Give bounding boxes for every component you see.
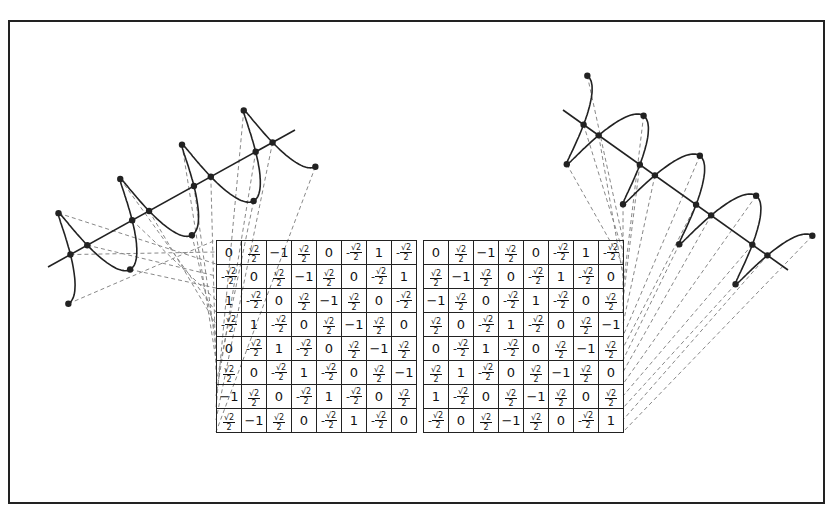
matrix-row: √220-√221-√220√22−1 xyxy=(424,313,624,337)
matrix-cell: −1 xyxy=(474,241,499,265)
sample-point xyxy=(595,132,601,138)
matrix-cell: -√22 xyxy=(292,337,317,361)
projection-line xyxy=(623,244,679,360)
matrix-cell: √22 xyxy=(524,409,549,433)
matrix-cell: -√22 xyxy=(499,337,524,361)
matrix-cell: -√22 xyxy=(499,289,524,313)
matrix-cell: -√22 xyxy=(524,313,549,337)
matrix-cell: -√22 xyxy=(242,337,267,361)
matrix-cell: 1 xyxy=(317,385,342,409)
matrix-cell: -√22 xyxy=(317,361,342,385)
matrix-cell: 0 xyxy=(424,241,449,265)
matrix-cell: 0 xyxy=(474,289,499,313)
sample-point xyxy=(146,208,152,214)
matrix-cell: 0 xyxy=(342,361,367,385)
matrix-row: √220-√221-√220√22−1 xyxy=(217,361,417,385)
matrix-row: -√221-√220√22−1√220 xyxy=(217,313,417,337)
matrix-cell: 0 xyxy=(474,385,499,409)
projection-line xyxy=(87,245,216,276)
matrix-cell: 1 xyxy=(424,385,449,409)
projection-line xyxy=(623,156,700,336)
matrix-cell: -√22 xyxy=(599,241,624,265)
sample-point xyxy=(749,241,755,247)
sample-point xyxy=(584,73,590,79)
matrix-cell: 0 xyxy=(392,409,417,433)
matrix-cell: -√22 xyxy=(474,313,499,337)
projection-line xyxy=(623,236,812,432)
sample-point xyxy=(809,233,815,239)
matrix-row: 1-√220√22−1√220-√22 xyxy=(217,289,417,313)
sample-point xyxy=(708,212,714,218)
matrix-cell: -√22 xyxy=(217,313,242,337)
matrix-cell: -√22 xyxy=(317,409,342,433)
sample-point xyxy=(764,252,770,258)
sample-point xyxy=(208,173,214,179)
matrix-row: −1√220-√221-√220√22 xyxy=(424,289,624,313)
sample-point xyxy=(637,161,643,167)
matrix-cell: −1 xyxy=(217,385,242,409)
matrix-cell: 0 xyxy=(292,409,317,433)
matrix-cell: 0 xyxy=(217,337,242,361)
sample-point xyxy=(620,201,626,207)
matrix-cell: 0 xyxy=(549,313,574,337)
matrix-cell: -√22 xyxy=(292,385,317,409)
projection-line xyxy=(623,255,767,420)
right-matrix: 0√22−1√220-√221-√22√22−1√220-√221-√220−1… xyxy=(423,240,624,433)
matrix-cell: -√22 xyxy=(392,241,417,265)
matrix-cell: -√22 xyxy=(574,265,599,289)
matrix-cell: √22 xyxy=(549,337,574,361)
matrix-cell: 0 xyxy=(574,385,599,409)
matrix-cell: 0 xyxy=(367,385,392,409)
matrix-row: 0-√221-√220√22−1√22 xyxy=(424,337,624,361)
sample-point xyxy=(84,242,90,248)
matrix-cell: −1 xyxy=(574,337,599,361)
matrix-cell: 0 xyxy=(549,409,574,433)
matrix-cell: √22 xyxy=(474,409,499,433)
matrix-cell: 0 xyxy=(367,289,392,313)
matrix-cell: 0 xyxy=(242,265,267,289)
sample-point xyxy=(241,107,247,113)
projection-line xyxy=(68,240,216,304)
sample-point xyxy=(189,232,195,238)
matrix-cell: 0 xyxy=(267,385,292,409)
matrix-cell: √22 xyxy=(342,289,367,313)
matrix-cell: √22 xyxy=(599,385,624,409)
projection-line xyxy=(149,211,216,324)
matrix-cell: √22 xyxy=(499,385,524,409)
sample-point xyxy=(697,153,703,159)
sample-point xyxy=(117,176,123,182)
matrix-cell: √22 xyxy=(449,289,474,313)
projection-line xyxy=(623,215,711,372)
matrix-cell: −1 xyxy=(599,313,624,337)
matrix-cell: −1 xyxy=(342,313,367,337)
sample-point xyxy=(55,210,61,216)
matrix-cell: 1 xyxy=(449,361,474,385)
matrix-cell: 0 xyxy=(599,361,624,385)
matrix-cell: √22 xyxy=(449,241,474,265)
matrix-cell: √22 xyxy=(549,385,574,409)
matrix-cell: √22 xyxy=(317,265,342,289)
sample-point xyxy=(312,164,318,170)
matrix-cell: -√22 xyxy=(549,241,574,265)
sample-point xyxy=(129,217,135,223)
matrix-cell: √22 xyxy=(267,409,292,433)
matrix-cell: √22 xyxy=(317,313,342,337)
matrix-cell: √22 xyxy=(574,361,599,385)
matrix-cell: -√22 xyxy=(217,265,242,289)
matrix-cell: √22 xyxy=(392,337,417,361)
matrix-cell: √22 xyxy=(292,289,317,313)
matrix-cell: 0 xyxy=(449,409,474,433)
matrix-cell: 1 xyxy=(499,313,524,337)
matrix-cell: -√22 xyxy=(267,361,292,385)
matrix-cell: √22 xyxy=(499,241,524,265)
matrix-cell: 0 xyxy=(524,337,549,361)
projection-line xyxy=(623,196,756,384)
matrix-cell: √22 xyxy=(367,313,392,337)
matrix-cell: √22 xyxy=(474,265,499,289)
matrix-cell: -√22 xyxy=(367,265,392,289)
matrix-cell: 1 xyxy=(474,337,499,361)
projection-line xyxy=(587,76,623,240)
matrix-cell: 1 xyxy=(549,265,574,289)
matrix-row: −1√220-√221-√220√22 xyxy=(217,385,417,409)
matrix-cell: √22 xyxy=(424,265,449,289)
